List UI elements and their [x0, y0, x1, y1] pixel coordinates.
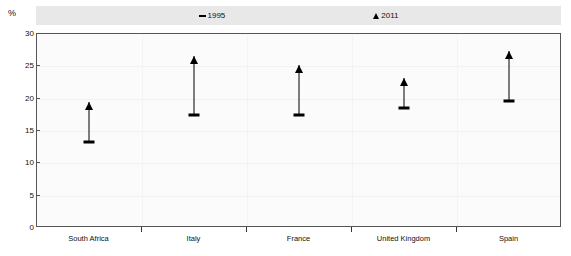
x-tick-mark-4: [456, 227, 457, 232]
legend-label-2011: 2011: [381, 11, 398, 20]
legend-item-2011: 2011: [373, 11, 398, 20]
y-tick-label-25: 25: [12, 61, 34, 70]
marker-1995-france: [293, 114, 304, 117]
y-axis: 051015202530: [8, 0, 34, 256]
gridline-y-15: [37, 131, 560, 132]
dash-marker-icon: [199, 15, 206, 17]
marker-1995-italy: [188, 114, 199, 117]
y-tick-label-20: 20: [12, 93, 34, 102]
y-tick-label-0: 0: [12, 223, 34, 232]
x-tick-label-italy: Italy: [187, 234, 201, 243]
y-tick-mark-25: [36, 65, 40, 66]
marker-1995-united-kingdom: [398, 107, 409, 110]
gridline-y-5: [37, 196, 560, 197]
gridline-y-10: [37, 163, 560, 164]
marker-2011-spain: [505, 51, 513, 59]
triangle-up-marker-icon: [373, 13, 379, 19]
x-tick-label-spain: Spain: [499, 234, 518, 243]
x-tick-label-south-africa: South Africa: [68, 234, 108, 243]
y-tick-mark-15: [36, 130, 40, 131]
y-tick-label-15: 15: [12, 126, 34, 135]
x-tick-mark-1: [141, 227, 142, 232]
y-tick-label-30: 30: [12, 29, 34, 38]
marker-1995-south-africa: [83, 141, 94, 144]
y-tick-mark-10: [36, 162, 40, 163]
plot-area: [36, 33, 561, 227]
marker-2011-france: [295, 65, 303, 73]
x-tick-label-united-kingdom: United Kingdom: [377, 234, 430, 243]
gridline-x-4: [457, 34, 458, 226]
x-tick-label-france: France: [287, 234, 310, 243]
chart-legend: 1995 2011: [36, 6, 561, 25]
x-tick-mark-2: [246, 227, 247, 232]
marker-2011-italy: [190, 56, 198, 64]
marker-2011-south-africa: [85, 102, 93, 110]
marker-2011-united-kingdom: [400, 78, 408, 86]
y-tick-mark-5: [36, 195, 40, 196]
y-tick-mark-20: [36, 98, 40, 99]
y-tick-label-10: 10: [12, 158, 34, 167]
gridline-x-3: [352, 34, 353, 226]
marker-1995-spain: [503, 99, 514, 102]
gridline-x-2: [247, 34, 248, 226]
connector-line-italy: [193, 56, 194, 115]
y-tick-label-5: 5: [12, 190, 34, 199]
legend-label-1995: 1995: [208, 11, 226, 20]
chart-figure: % 1995 2011 051015202530 South AfricaIta…: [0, 0, 571, 256]
legend-item-1995: 1995: [199, 11, 226, 20]
x-tick-mark-3: [351, 227, 352, 232]
gridline-x-1: [142, 34, 143, 226]
